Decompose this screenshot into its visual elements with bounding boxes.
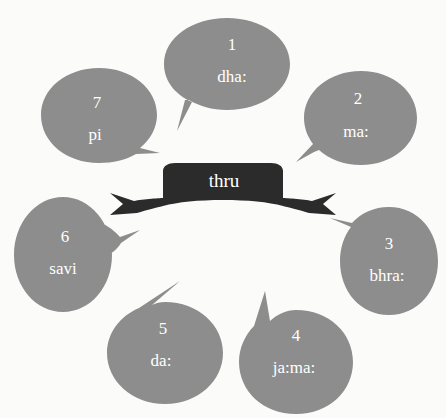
bubble-7-label: pi (88, 125, 102, 144)
speech-bubble-2[interactable]: 2 ma: (296, 71, 417, 165)
bubble-3-label: bhra: (370, 266, 405, 285)
bubble-2-label: ma: (343, 122, 369, 141)
center-banner[interactable]: thru (110, 163, 336, 215)
bubble-3-shape (330, 207, 438, 315)
bubble-6-shape (14, 197, 140, 312)
bubble-2-shape (296, 71, 417, 165)
speech-bubble-5[interactable]: 5 da: (107, 281, 223, 404)
speech-bubble-6[interactable]: 6 savi (14, 197, 140, 312)
bubble-3-number: 3 (385, 234, 394, 253)
speech-bubble-4[interactable]: 4 ja:ma: (239, 291, 353, 414)
bubble-5-shape (107, 281, 223, 404)
banner-label: thru (209, 170, 240, 191)
speech-bubble-3[interactable]: 3 bhra: (330, 207, 438, 315)
bubble-5-label: da: (151, 351, 172, 370)
bubble-6-label: savi (49, 259, 77, 278)
bubble-1-label: dha: (217, 67, 246, 86)
bubble-7-number: 7 (93, 93, 102, 112)
cycle-diagram-svg: 1 dha: 2 ma: 3 bhra: 4 ja:ma: 5 da: (0, 0, 446, 418)
bubble-7-shape (41, 68, 160, 163)
bubble-4-shape (239, 291, 353, 414)
diagram-canvas: 1 dha: 2 ma: 3 bhra: 4 ja:ma: 5 da: (0, 0, 446, 418)
bubble-4-label: ja:ma: (272, 358, 315, 377)
bubble-2-number: 2 (354, 89, 363, 108)
bubble-5-number: 5 (159, 319, 168, 338)
speech-bubble-1[interactable]: 1 dha: (164, 18, 290, 131)
speech-bubble-7[interactable]: 7 pi (41, 68, 160, 163)
bubble-1-number: 1 (228, 35, 237, 54)
bubble-6-number: 6 (61, 227, 70, 246)
bubble-4-number: 4 (292, 326, 301, 345)
